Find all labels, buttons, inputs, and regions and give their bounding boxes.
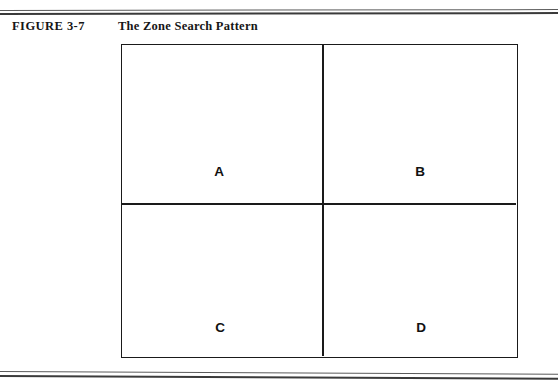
zone-search-diagram: A B C D xyxy=(121,44,518,358)
zone-label-a: A xyxy=(207,164,231,179)
zone-label-c: C xyxy=(208,320,232,335)
top-rule-thin xyxy=(0,9,558,11)
figure-page: FIGURE 3-7 The Zone Search Pattern A B C… xyxy=(0,0,558,388)
figure-caption-title: The Zone Search Pattern xyxy=(118,19,258,34)
diagram-horizontal-divider xyxy=(122,203,516,205)
top-rule-thick xyxy=(0,12,558,15)
zone-label-d: D xyxy=(409,320,433,335)
figure-number-label: FIGURE 3-7 xyxy=(12,19,85,34)
bottom-rule-thick xyxy=(0,375,558,380)
bottom-rule-thin xyxy=(0,371,558,375)
zone-label-b: B xyxy=(408,164,432,179)
diagram-vertical-divider xyxy=(322,45,324,356)
